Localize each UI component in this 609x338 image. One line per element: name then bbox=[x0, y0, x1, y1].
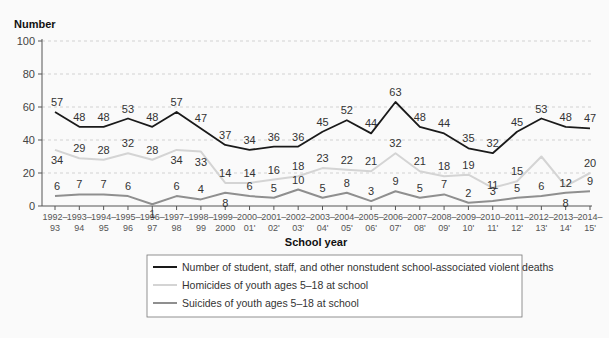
x-tick-label-bottom: 03' bbox=[292, 223, 304, 233]
legend-label: Suicides of youth ages 5–18 at school bbox=[182, 297, 359, 309]
series-suicides-value-label: 3 bbox=[368, 185, 374, 197]
series-total-deaths-value-label: 48 bbox=[73, 111, 85, 123]
legend-label: Homicides of youth ages 5–18 at school bbox=[182, 279, 368, 291]
series-suicides-value-label: 5 bbox=[417, 182, 423, 194]
series-total-deaths-value-label: 32 bbox=[487, 137, 499, 149]
series-homicides-value-label: 19 bbox=[462, 159, 474, 171]
series-homicides-value-label: 28 bbox=[98, 144, 110, 156]
x-tick-label-bottom: 09' bbox=[438, 223, 450, 233]
y-tick-label: 60 bbox=[23, 101, 35, 113]
series-suicides-value-label: 3 bbox=[490, 185, 496, 197]
x-tick-label-bottom: 96 bbox=[123, 223, 133, 233]
x-tick-label-bottom: 02' bbox=[268, 223, 280, 233]
series-total-deaths-value-label: 35 bbox=[462, 132, 474, 144]
x-tick-label-top: 2013– bbox=[553, 212, 578, 222]
legend-label: Number of student, staff, and other nons… bbox=[182, 261, 554, 273]
x-tick-label-bottom: 07' bbox=[390, 223, 402, 233]
series-total-deaths-value-label: 48 bbox=[560, 111, 572, 123]
series-suicides-value-label: 7 bbox=[101, 178, 107, 190]
series-suicides-value-label: 6 bbox=[54, 180, 60, 192]
x-tick-label-top: 2012– bbox=[529, 212, 554, 222]
series-suicides-value-label: 8 bbox=[563, 197, 569, 209]
series-homicides-value-label: 14 bbox=[243, 167, 255, 179]
x-tick-label-bottom: 04' bbox=[317, 223, 329, 233]
series-total-deaths-value-label: 52 bbox=[341, 104, 353, 116]
series-homicides-value-label: 18 bbox=[438, 160, 450, 172]
x-tick-label-bottom: 97 bbox=[147, 223, 157, 233]
legend-item-homicides: Homicides of youth ages 5–18 at school bbox=[153, 279, 368, 291]
x-tick-label-top: 2001– bbox=[261, 212, 286, 222]
legend-item-total-deaths: Number of student, staff, and other nons… bbox=[153, 261, 554, 273]
x-tick-label-top: 1993– bbox=[67, 212, 92, 222]
series-suicides-value-label: 7 bbox=[76, 178, 82, 190]
x-tick-label-top: 1997– bbox=[164, 212, 189, 222]
x-tick-label-top: 2011– bbox=[505, 212, 529, 222]
x-tick-label-bottom: 15' bbox=[584, 223, 596, 233]
series-suicides-value-label: 8 bbox=[344, 177, 350, 189]
x-tick-label-top: 1998– bbox=[188, 212, 213, 222]
x-tick-label-bottom: 2000 bbox=[215, 223, 235, 233]
x-tick-label-top: 2010– bbox=[480, 212, 505, 222]
x-tick-label-bottom: 94 bbox=[74, 223, 84, 233]
series-total-deaths-value-label: 48 bbox=[98, 111, 110, 123]
series-total-deaths-value-label: 48 bbox=[414, 111, 426, 123]
series-total-deaths-value-label: 36 bbox=[292, 131, 304, 143]
series-homicides-value-label: 20 bbox=[584, 157, 596, 169]
x-tick-label-top: 1999– bbox=[213, 212, 238, 222]
x-tick-label-top: 2002– bbox=[286, 212, 311, 222]
x-tick-label-bottom: 05' bbox=[341, 223, 353, 233]
series-homicides-value-label: 16 bbox=[268, 164, 280, 176]
x-tick-label-bottom: 99 bbox=[196, 223, 206, 233]
series-total-deaths-value-label: 48 bbox=[146, 111, 158, 123]
series-homicides-value-label: 32 bbox=[122, 137, 134, 149]
series-total-deaths-value-label: 47 bbox=[195, 112, 207, 124]
series-homicides-value-label: 34 bbox=[170, 154, 182, 166]
series-total-deaths-value-label: 53 bbox=[535, 103, 547, 115]
x-tick-label-bottom: 14' bbox=[560, 223, 572, 233]
x-tick-label-top: 2007– bbox=[407, 212, 432, 222]
series-suicides-value-label: 9 bbox=[587, 175, 593, 187]
x-axis: 1992–931993–941994–951995–961996–971997–… bbox=[42, 206, 603, 233]
x-tick-label-top: 1995– bbox=[115, 212, 140, 222]
series-homicides-value-label: 18 bbox=[292, 160, 304, 172]
series-suicides-value-label: 6 bbox=[125, 180, 131, 192]
series-suicides-value-label: 7 bbox=[441, 178, 447, 190]
series-suicides-value-label: 8 bbox=[222, 197, 228, 209]
series-homicides-value-label: 14 bbox=[219, 167, 231, 179]
series-suicides-value-label: 6 bbox=[246, 180, 252, 192]
y-tick-label: 40 bbox=[23, 134, 35, 146]
series-homicides-value-label: 22 bbox=[341, 154, 353, 166]
x-tick-label-bottom: 10' bbox=[463, 223, 475, 233]
series-suicides-value-label: 5 bbox=[271, 182, 277, 194]
series-suicides-value-label: 6 bbox=[538, 180, 544, 192]
series-homicides-value-label: 33 bbox=[195, 156, 207, 168]
series-total-deaths-value-label: 53 bbox=[122, 103, 134, 115]
series-total-deaths-value-label: 63 bbox=[389, 86, 401, 98]
x-tick-label-bottom: 11' bbox=[487, 223, 498, 233]
series-suicides-value-label: 5 bbox=[319, 182, 325, 194]
series-homicides-value-label: 23 bbox=[316, 152, 328, 164]
y-axis: 020406080100 bbox=[17, 35, 42, 212]
series-homicides-value-label: 15 bbox=[511, 165, 523, 177]
x-tick-label-bottom: 12' bbox=[511, 223, 523, 233]
legend-item-suicides: Suicides of youth ages 5–18 at school bbox=[153, 297, 359, 309]
legend: Number of student, staff, and other nons… bbox=[147, 255, 554, 317]
x-tick-label-bottom: 13' bbox=[535, 223, 547, 233]
series-suicides-value-label: 1 bbox=[149, 208, 155, 220]
x-tick-label-top: 2008– bbox=[432, 212, 457, 222]
x-tick-label-top: 2003– bbox=[310, 212, 335, 222]
series-total-deaths-value-label: 45 bbox=[511, 116, 523, 128]
line-chart: 020406080100 Number 1992–931993–941994–9… bbox=[0, 0, 609, 338]
series-suicides-value-label: 5 bbox=[514, 182, 520, 194]
y-tick-label: 100 bbox=[17, 35, 35, 47]
x-tick-label-bottom: 93 bbox=[50, 223, 60, 233]
series-total-deaths-value-label: 57 bbox=[51, 96, 63, 108]
series-suicides-value-label: 4 bbox=[198, 183, 204, 195]
series-total-deaths-value-label: 47 bbox=[584, 112, 596, 124]
y-axis-title: Number bbox=[14, 18, 56, 30]
series-homicides-value-label: 28 bbox=[146, 144, 158, 156]
x-tick-label-bottom: 06' bbox=[365, 223, 377, 233]
series-suicides-value-label: 6 bbox=[174, 180, 180, 192]
x-axis-title: School year bbox=[285, 236, 348, 248]
series-homicides-value-label: 21 bbox=[365, 155, 377, 167]
